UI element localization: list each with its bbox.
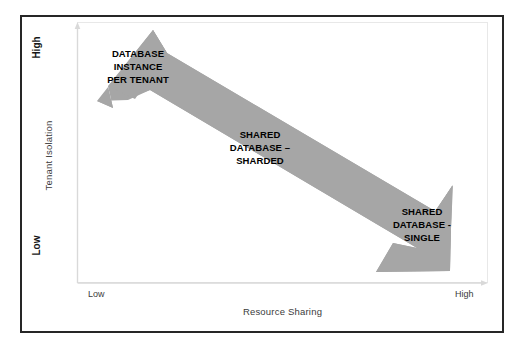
- annotation-line: DATABASE -: [370, 219, 474, 232]
- annotation-line: DATABASE: [92, 48, 184, 61]
- annotation-line: PER TENANT: [92, 74, 184, 87]
- annotation-database-instance-per-tenant: DATABASE INSTANCE PER TENANT: [92, 48, 184, 86]
- annotation-shared-database-sharded: SHARED DATABASE – SHARDED: [204, 129, 316, 167]
- y-axis-tick-low: Low: [31, 226, 42, 266]
- y-axis-title: Tenant Isolation: [43, 86, 54, 226]
- annotation-line: SHARED: [370, 206, 474, 219]
- annotation-shared-database-single: SHARED DATABASE - SINGLE: [370, 206, 474, 244]
- y-axis-tick-high: High: [31, 28, 42, 68]
- tenant-isolation-vs-resource-sharing-diagram: Tenant Isolation High Low Resource Shari…: [0, 0, 526, 349]
- annotation-line: DATABASE –: [204, 142, 316, 155]
- x-axis-tick-high: High: [455, 289, 474, 299]
- double-headed-arrow-shape: [0, 0, 526, 349]
- x-axis-tick-low: Low: [88, 289, 105, 299]
- annotation-line: SHARDED: [204, 155, 316, 168]
- annotation-line: INSTANCE: [92, 61, 184, 74]
- annotation-line: SINGLE: [370, 232, 474, 245]
- x-axis-title: Resource Sharing: [77, 306, 488, 317]
- annotation-line: SHARED: [204, 129, 316, 142]
